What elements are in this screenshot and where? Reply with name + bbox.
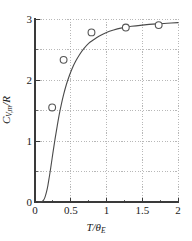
y-axis-label-tail: /R [0, 96, 12, 106]
y-axis-label: CV,m/R [1, 96, 12, 124]
data-point [122, 24, 129, 31]
xtick-label-1: 1 [104, 205, 110, 216]
xtick-label-1.5: 1.5 [135, 205, 149, 216]
ytick-label-3: 3 [27, 14, 33, 25]
data-point-markers [49, 22, 162, 111]
y-axis-ticks [35, 19, 40, 202]
data-point [88, 29, 95, 36]
ytick-label-2: 2 [27, 75, 33, 86]
data-point [49, 104, 56, 111]
xtick-label-2: 2 [175, 205, 181, 216]
xtick-label-0: 0 [32, 205, 38, 216]
chart-figure: 0 0.5 1 1.5 2 0 1 2 3 T/θE CV,m/R [0, 0, 192, 241]
x-axis-label: T/θE [86, 222, 105, 233]
y-axis-label-symbol: C [0, 117, 12, 124]
ytick-label-1: 1 [27, 136, 33, 147]
x-axis-ticks [35, 198, 178, 203]
y-axis-label-subscript: V,m [5, 106, 14, 117]
x-axis-label-subscript: E [101, 226, 106, 235]
xtick-label-0.5: 0.5 [64, 205, 78, 216]
ytick-label-0: 0 [27, 197, 33, 208]
data-point [155, 22, 162, 29]
x-axis-label-symbol: T/θ [86, 221, 101, 233]
data-point [60, 56, 67, 63]
